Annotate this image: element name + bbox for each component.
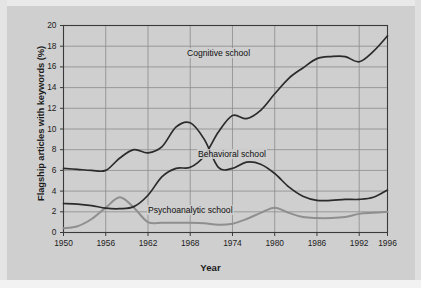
chart-figure: 02468101214161820 1950195619621968197419… bbox=[0, 0, 421, 288]
x-tick-label: 1986 bbox=[297, 238, 337, 248]
x-tick-label: 1980 bbox=[255, 238, 295, 248]
x-tick-label: 1950 bbox=[44, 238, 84, 248]
y-tick-label: 0 bbox=[37, 227, 57, 237]
series-label-psychoanalytic: Psychoanalytic school bbox=[147, 205, 234, 215]
x-tick-label: 1974 bbox=[212, 238, 252, 248]
series-lines bbox=[64, 36, 388, 229]
x-tick-label: 1968 bbox=[170, 238, 210, 248]
scan-edge-left bbox=[0, 0, 7, 288]
x-axis-title: Year bbox=[0, 262, 421, 273]
scan-edge-right bbox=[415, 0, 421, 288]
y-axis-title: Flagship articles with keywords (%) bbox=[35, 24, 46, 224]
gridlines-horizontal bbox=[64, 46, 388, 212]
series-line-behavioral-school bbox=[64, 122, 388, 201]
x-tick-label: 1956 bbox=[86, 238, 126, 248]
series-label-cognitive: Cognitive school bbox=[186, 48, 251, 58]
x-tick-label: 1962 bbox=[128, 238, 168, 248]
series-line-cognitive-school bbox=[64, 36, 388, 209]
series-label-behavioral: Behavioral school bbox=[197, 149, 267, 159]
x-tick-label: 1996 bbox=[368, 238, 408, 248]
